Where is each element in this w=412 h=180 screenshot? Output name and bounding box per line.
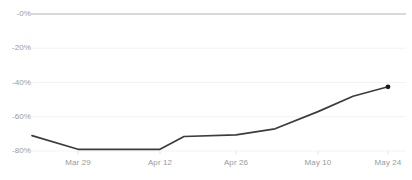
y-tick-label-40: -40% [12, 79, 31, 87]
x-tick-label-may-10: May 10 [305, 159, 332, 167]
x-tick-label-mar-29: Mar 29 [65, 159, 91, 167]
line-chart: -0% -20% -40% -60% -80% Mar 29 Apr 12 Ap… [0, 0, 412, 180]
series-1-line [32, 87, 388, 150]
x-tick-label-may-24: May 24 [375, 159, 402, 167]
y-tick-label-20: -20% [12, 44, 31, 52]
chart-plot-area [0, 0, 412, 180]
x-tick-label-apr-12: Apr 12 [148, 159, 172, 167]
y-tick-label-60: -60% [12, 113, 31, 121]
y-tick-label-0: -0% [16, 10, 31, 18]
y-tick-label-80: -80% [12, 147, 31, 155]
series-1-end-marker [386, 84, 391, 89]
x-tick-label-apr-26: Apr 26 [224, 159, 248, 167]
